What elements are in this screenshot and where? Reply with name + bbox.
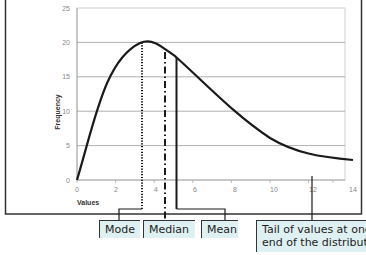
y-tick: 0 <box>66 177 70 184</box>
tail-label-line2: end of the distribution <box>262 236 361 249</box>
x-axis-title: Values <box>77 199 99 206</box>
chart-svg: 0 5 10 15 20 25 0 2 4 6 8 10 <box>0 0 366 255</box>
tail-label: Tail of values at one end of the distrib… <box>256 220 366 252</box>
x-tick: 14 <box>349 186 357 193</box>
y-axis-title: Frequency <box>54 94 62 130</box>
x-tick: 6 <box>193 186 197 193</box>
skewed-distribution-figure: 0 5 10 15 20 25 0 2 4 6 8 10 <box>0 0 366 255</box>
x-tick: 0 <box>75 186 79 193</box>
mean-label: Mean <box>201 220 238 238</box>
median-label-text: Median <box>149 223 189 236</box>
y-tick: 5 <box>66 142 70 149</box>
x-tick: 8 <box>233 186 237 193</box>
x-tick: 2 <box>114 186 118 193</box>
median-label: Median <box>143 220 195 238</box>
x-tick: 4 <box>154 186 158 193</box>
y-tick: 10 <box>62 108 70 115</box>
x-tick: 10 <box>270 186 278 193</box>
mode-label: Mode <box>99 220 140 238</box>
y-tick: 15 <box>62 73 70 80</box>
y-tick: 20 <box>62 39 70 46</box>
x-tick: 12 <box>309 186 317 193</box>
mode-label-text: Mode <box>105 223 135 236</box>
y-tick: 25 <box>62 5 70 12</box>
tail-label-line1: Tail of values at one <box>262 223 361 236</box>
mean-label-text: Mean <box>207 223 237 236</box>
